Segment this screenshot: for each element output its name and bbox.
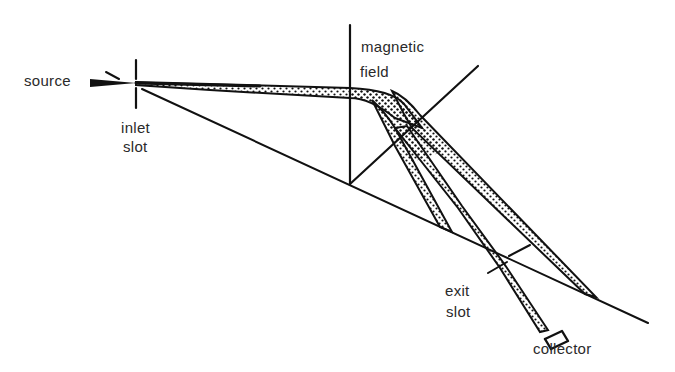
mass-spectrometer-diagram: [0, 0, 675, 372]
exit-slit-upper: [509, 245, 530, 256]
label-exit-line2: slot: [446, 302, 471, 321]
source-dash: [106, 72, 119, 79]
label-source: source: [24, 71, 71, 90]
label-collector: collector: [533, 339, 592, 358]
label-magnetic-line1: magnetic: [361, 37, 424, 56]
label-inlet-line1: inlet: [121, 118, 150, 137]
source-arrow-icon: [90, 79, 136, 87]
label-magnetic-line2: field: [360, 62, 389, 81]
label-exit-line1: exit: [445, 281, 470, 300]
label-inlet-line2: slot: [123, 137, 148, 156]
